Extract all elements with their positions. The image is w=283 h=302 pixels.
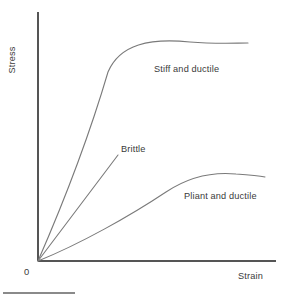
axis-label-stress-text: Stress — [6, 47, 17, 74]
origin-label: 0 — [24, 266, 29, 277]
axis-label-strain: Strain — [238, 271, 263, 282]
curve-pliant-and-ductile — [38, 174, 265, 261]
stress-strain-figure: Stress Strain 0 Stiff and ductile Brittl… — [0, 0, 283, 302]
curve-label-pliant-and-ductile: Pliant and ductile — [184, 191, 257, 202]
curve-brittle — [38, 155, 118, 261]
scale-bar — [3, 292, 75, 294]
axis-label-stress: Stress — [6, 38, 17, 82]
curve-label-stiff-and-ductile: Stiff and ductile — [154, 64, 219, 75]
curve-label-brittle: Brittle — [121, 144, 146, 155]
